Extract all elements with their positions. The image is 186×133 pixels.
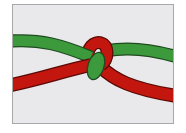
red-rope-left-strand — [12, 65, 91, 85]
diagram-frame: Knot joining two ropes — [12, 4, 174, 124]
green-rope-right-strand — [105, 49, 174, 57]
red-rope-right-strand — [101, 67, 174, 96]
green-rope-left-strand — [12, 41, 91, 57]
knot-diagram — [12, 4, 174, 124]
